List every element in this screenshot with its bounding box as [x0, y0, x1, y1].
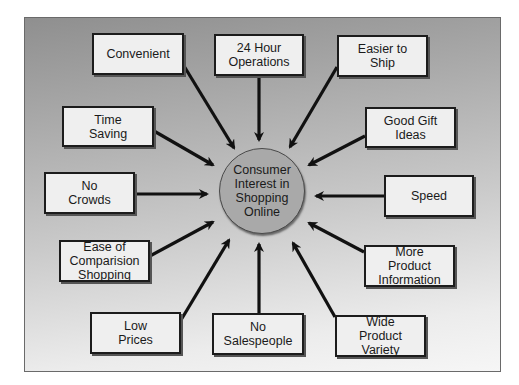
node-easier-to-ship: Easier to Ship — [337, 35, 428, 77]
center-node: Consumer Interest in Shopping Online — [219, 148, 305, 234]
node-good-gift-ideas: Good Gift Ideas — [365, 107, 456, 148]
arrow-more-product — [309, 223, 364, 252]
arrow-time-saving — [154, 131, 213, 165]
node-ease-of-comparision-shopping: Ease of Comparision Shopping — [59, 240, 150, 282]
node-no-crowds: No Crowds — [44, 172, 135, 214]
node-more-product-information: More Product Information — [364, 245, 455, 287]
arrow-easier-to-ship — [290, 67, 337, 147]
arrow-low-prices — [181, 240, 229, 320]
arrow-wide-product — [293, 243, 335, 317]
node-time-saving: Time Saving — [62, 106, 154, 147]
node-24-hour-operations: 24 Hour Operations — [214, 34, 304, 76]
arrow-good-gift — [309, 136, 365, 165]
node-convenient: Convenient — [92, 33, 184, 75]
node-wide-product-variety: Wide Product Variety — [335, 315, 426, 357]
arrow-ease-of — [150, 222, 213, 256]
node-low-prices: Low Prices — [90, 312, 181, 354]
node-speed: Speed — [384, 175, 474, 217]
arrow-convenient — [184, 66, 234, 148]
node-no-salespeople: No Salespeople — [212, 313, 304, 355]
